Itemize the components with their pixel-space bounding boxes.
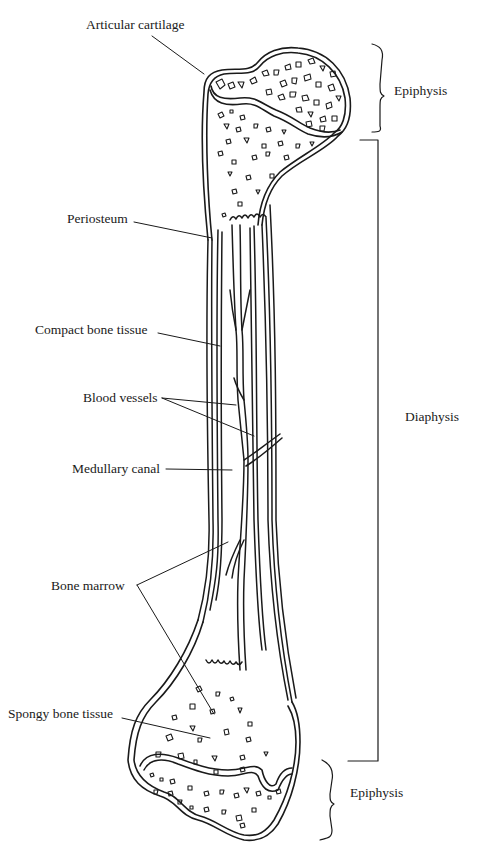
leader-spongy-bone [122, 718, 210, 738]
leader-periosteum [134, 222, 212, 238]
label-medullary-canal: Medullary canal [72, 462, 160, 476]
label-compact-bone-tissue: Compact bone tissue [35, 323, 147, 337]
label-epiphysis-top: Epiphysis [394, 84, 447, 98]
region-markers [320, 44, 384, 840]
label-bone-marrow: Bone marrow [51, 579, 125, 593]
label-articular-cartilage: Articular cartilage [86, 18, 185, 32]
leader-compact-bone [158, 333, 220, 346]
proximal-epiphysis [202, 48, 350, 240]
distal-epiphysis [128, 620, 300, 840]
leader-blood-vessel-1 [162, 398, 236, 405]
diaphysis-shaft [198, 205, 296, 702]
label-blood-vessels: Blood vessels [83, 391, 158, 405]
brace-epiphysis-top [372, 44, 384, 132]
leader-bone-marrow-1 [137, 542, 228, 585]
label-periosteum: Periosteum [67, 212, 128, 226]
label-diaphysis: Diaphysis [405, 410, 459, 424]
bone-diagram: Articular cartilage Periosteum Compact b… [0, 0, 482, 858]
bone-drawing [0, 0, 482, 858]
leader-articular-cartilage [152, 36, 204, 74]
label-spongy-bone-tissue: Spongy bone tissue [8, 707, 113, 721]
label-epiphysis-bottom: Epiphysis [350, 786, 403, 800]
brace-epiphysis-bottom [320, 760, 334, 840]
bracket-diaphysis [348, 140, 378, 761]
leader-lines [122, 36, 254, 738]
